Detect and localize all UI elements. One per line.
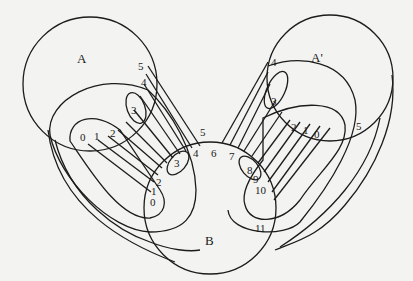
set-a-label: A [77,51,87,66]
set-a-prime-circle [267,15,393,141]
a-label-5: 5 [138,60,144,72]
diagram-svg: A A' B 0 1 2 3 4 5 0 1 2 3 4 5 0 1 2 3 4… [0,0,413,281]
a-prime-label-1: 1 [303,124,309,136]
b-label-5: 5 [200,126,206,138]
a-label-4: 4 [141,76,147,88]
b-label-0: 0 [150,196,156,208]
a-prime-label-0: 0 [314,128,320,140]
a-label-2: 2 [110,127,116,139]
b-label-4: 4 [193,147,199,159]
b-label-11: 11 [255,222,266,234]
a-prime-label-5: 5 [356,120,362,132]
a-prime-label-4: 4 [271,56,277,68]
a-label-0: 0 [80,131,86,143]
b-label-3: 3 [174,157,180,169]
b-label-10: 10 [255,184,267,196]
b-label-6: 6 [211,147,217,159]
b-label-7: 7 [229,150,235,162]
set-a-circle [23,17,157,151]
set-b-label: B [205,233,214,248]
right-nested-regions [222,61,393,250]
b-label-2: 2 [156,176,162,188]
a-prime-label-2: 2 [291,121,297,133]
a-label-1: 1 [94,130,100,142]
a-prime-label-3: 3 [271,95,277,107]
a-label-3: 3 [131,104,137,116]
venn-mapping-diagram: A A' B 0 1 2 3 4 5 0 1 2 3 4 5 0 1 2 3 4… [0,0,413,281]
set-a-prime-label: A' [311,50,323,65]
